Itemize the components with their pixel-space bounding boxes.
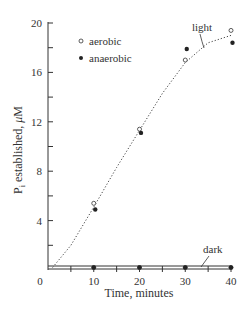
legend-aerobic: aerobic [89,35,121,47]
svg-text:Pi established, μM: Pi established, μM [11,106,27,194]
y-axis-label: Pi established, μM [11,106,27,194]
y-tick-label: 16 [31,66,43,78]
filled-circle-point [139,131,143,135]
filled-circle-point [230,41,234,45]
x-tick-label: 10 [88,275,100,287]
light-curve [53,35,231,267]
open-circle-icon [79,39,83,43]
filled-circle-point [92,265,96,269]
legend: aerobic anaerobic [79,35,132,64]
light-pointer [200,34,204,48]
filled-circle-icon [79,56,83,60]
dark-pointer [201,256,209,267]
data-points [92,28,235,269]
filled-circle-point [229,265,233,269]
open-circle-point [92,201,96,205]
x-tick-label: 40 [226,275,238,287]
filled-circle-point [185,47,189,51]
chart: 48121620 010203040 aerobic anaerobic lig… [0,0,249,317]
open-circle-point [229,28,233,32]
legend-anaerobic: anaerobic [89,52,132,64]
x-axis-label: Time, minutes [105,286,174,300]
filled-circle-point [93,207,97,211]
y-tick-label: 12 [31,116,42,128]
x-ticks: 010203040 [37,266,237,287]
filled-circle-point [183,265,187,269]
x-tick-label: 0 [37,275,43,287]
filled-circle-point [137,265,141,269]
annotation-light: light [192,21,212,33]
annotation-dark: dark [203,243,223,255]
open-circle-point [138,127,142,131]
y-tick-label: 20 [31,17,43,29]
open-circle-point [183,58,187,62]
y-tick-label: 8 [37,165,43,177]
y-ticks: 48121620 [31,17,53,245]
x-tick-label: 30 [180,275,192,287]
y-tick-label: 4 [37,215,43,227]
